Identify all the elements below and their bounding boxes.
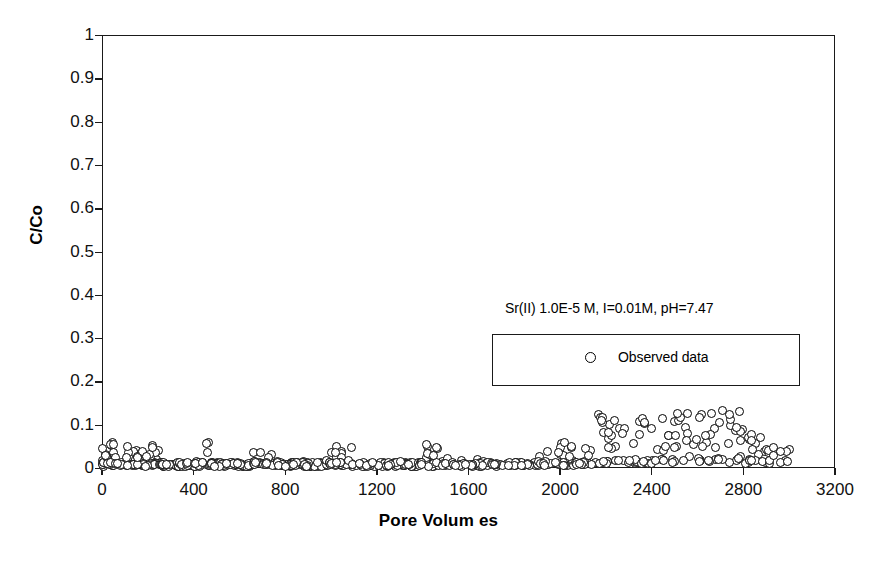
y-tick-label: 0.7 [70,156,94,173]
x-tick-mark [651,468,652,475]
y-tick-mark [95,35,102,36]
x-tick-label: 0 [97,481,106,498]
y-tick-mark [95,122,102,123]
y-tick-mark [95,208,102,209]
x-tick-mark [834,468,835,475]
y-tick-label: 0.2 [70,372,94,389]
legend-entry-observed-data: Observed data [585,349,709,365]
x-axis-title: Pore Volum es [0,511,877,531]
y-tick-label: 0.4 [70,286,94,303]
x-tick-label: 1600 [450,481,488,498]
y-tick-mark [95,295,102,296]
y-tick-label: 0.1 [70,416,94,433]
y-tick-mark [95,338,102,339]
x-tick-mark [376,468,377,475]
x-tick-label: 2400 [633,481,671,498]
x-tick-mark [468,468,469,475]
x-tick-mark [193,468,194,475]
y-tick-label: 0.8 [70,113,94,130]
x-tick-label: 1200 [358,481,396,498]
x-tick-label: 800 [271,481,299,498]
chart-legend: Observed data [492,334,800,386]
y-axis-title: C/Co [27,180,47,270]
chart-annotation: Sr(II) 1.0E-5 M, I=0.01M, pH=7.47 [505,300,713,316]
y-tick-mark [95,381,102,382]
y-tick-label: 0.5 [70,243,94,260]
x-tick-mark [743,468,744,475]
x-tick-label: 3200 [816,481,854,498]
legend-entry-label: Observed data [618,349,709,365]
chart-figure: 00.10.20.30.40.50.60.70.80.91 0400800120… [0,0,877,569]
x-tick-label: 400 [179,481,207,498]
y-tick-label: 0.9 [70,69,94,86]
y-tick-mark [95,252,102,253]
y-tick-label: 0 [85,459,94,476]
y-tick-mark [95,165,102,166]
y-tick-mark [95,78,102,79]
y-tick-label: 0.3 [70,329,94,346]
y-tick-label: 1 [85,26,94,43]
open-circle-marker-icon [585,352,596,363]
x-tick-label: 2000 [541,481,579,498]
y-tick-label: 0.6 [70,199,94,216]
x-tick-mark [101,468,102,475]
x-tick-mark [559,468,560,475]
plot-area [102,35,835,468]
x-tick-label: 2800 [724,481,762,498]
y-axis-tick-labels: 00.10.20.30.40.50.60.70.80.91 [28,0,94,569]
x-tick-mark [285,468,286,475]
y-tick-mark [95,425,102,426]
